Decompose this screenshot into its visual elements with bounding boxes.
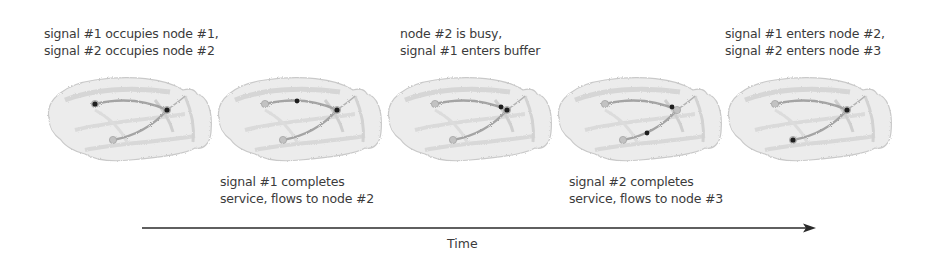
caption-step-4: signal #2 completes service, flows to no… — [569, 173, 723, 207]
signal-2-dot — [645, 131, 650, 136]
signal-2-dot — [334, 107, 339, 112]
caption-step-2: signal #1 completes service, flows to no… — [220, 173, 374, 207]
signal-1-dot — [844, 107, 849, 112]
caption-step-3: node #2 is busy, signal #1 enters buffer — [400, 25, 540, 59]
caption-step-5: signal #1 enters node #2, signal #2 ente… — [725, 25, 885, 59]
caption-line: node #2 is busy, — [400, 25, 540, 42]
brain-diagram-step-1 — [35, 70, 215, 170]
caption-line: service, flows to node #2 — [220, 190, 374, 207]
caption-line: signal #1 enters buffer — [400, 42, 540, 59]
signal-1-dot — [92, 101, 97, 106]
caption-line: signal #2 enters node #3 — [725, 42, 885, 59]
signal-2-dot — [504, 107, 509, 112]
caption-line: service, flows to node #3 — [569, 190, 723, 207]
caption-line: signal #2 completes — [569, 173, 723, 190]
time-axis-label: Time — [447, 236, 478, 251]
caption-line: signal #1 occupies node #1, — [44, 25, 218, 42]
brain-diagram-step-5 — [715, 70, 895, 170]
caption-line: signal #2 occupies node #2 — [44, 42, 218, 59]
brain-diagram-step-3 — [375, 70, 555, 170]
arrowhead-icon — [803, 224, 816, 233]
signal-1-dot — [499, 105, 504, 110]
caption-step-1: signal #1 occupies node #1, signal #2 oc… — [44, 25, 218, 59]
caption-line: signal #1 completes — [220, 173, 374, 190]
signal-1-dot — [670, 105, 675, 110]
caption-line: signal #1 enters node #2, — [725, 25, 885, 42]
brain-diagram-step-2 — [205, 70, 385, 170]
signal-2-dot — [790, 137, 795, 142]
signal-1-dot — [295, 99, 300, 104]
signal-2-dot — [164, 107, 169, 112]
brain-diagram-step-4 — [545, 70, 725, 170]
